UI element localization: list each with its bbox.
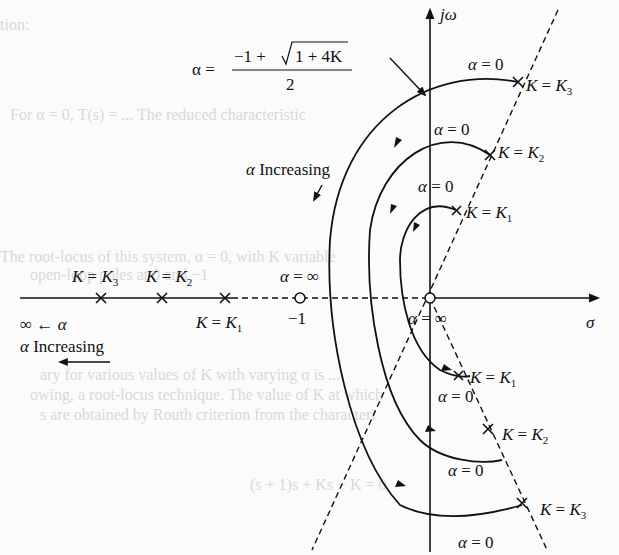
svg-text:α = ∞: α = ∞ bbox=[408, 309, 447, 328]
k-markers bbox=[96, 77, 527, 508]
svg-text:α = 0: α = 0 bbox=[434, 120, 470, 139]
svg-text:(s + 1)s + Ks − K = 0: (s + 1)s + Ks − K = 0 bbox=[250, 476, 387, 494]
svg-text:α = 0: α = 0 bbox=[468, 55, 504, 74]
svg-text:K = K1: K = K1 bbox=[195, 313, 242, 334]
svg-text:K = K1: K = K1 bbox=[469, 368, 516, 389]
svg-text:∞ ← α: ∞ ← α bbox=[20, 315, 68, 334]
svg-text:K = K1: K = K1 bbox=[465, 203, 512, 224]
svg-text:K = K3: K = K3 bbox=[539, 500, 587, 521]
alpha-formula: α = −1 + 1 + 4K 2 bbox=[192, 42, 425, 95]
svg-text:α =: α = bbox=[192, 60, 215, 79]
pole-origin bbox=[425, 293, 435, 303]
imag-axis-label: jω bbox=[438, 5, 457, 24]
svg-text:α = 0: α = 0 bbox=[458, 533, 494, 552]
svg-text:K = K2: K = K2 bbox=[145, 267, 192, 288]
real-axis-label: σ bbox=[586, 313, 595, 332]
root-locus-figure: tion: For α = 0, T(s) = ... The reduced … bbox=[0, 0, 619, 555]
svg-text:1 + 4K: 1 + 4K bbox=[295, 47, 343, 66]
dashed-asymptote-upper bbox=[312, 10, 558, 550]
svg-text:K = K2: K = K2 bbox=[497, 143, 544, 164]
svg-text:α = 0: α = 0 bbox=[448, 461, 484, 480]
svg-text:α Increasing: α Increasing bbox=[20, 337, 104, 356]
pole-minus-one bbox=[295, 293, 305, 303]
diagram-canvas: tion: For α = 0, T(s) = ... The reduced … bbox=[0, 0, 619, 555]
svg-text:owing, a root-locus technique.: owing, a root-locus technique. The value… bbox=[30, 386, 383, 404]
svg-text:tion:: tion: bbox=[0, 16, 29, 33]
real-axis-labels: K = K3 K = K2 K = K1 −1 α = ∞ α = ∞ ∞ ← … bbox=[20, 267, 447, 362]
svg-text:K = K3: K = K3 bbox=[71, 267, 119, 288]
svg-text:−1: −1 bbox=[288, 309, 306, 328]
svg-text:α = 0: α = 0 bbox=[418, 177, 454, 196]
svg-text:ary for various values of K wi: ary for various values of K with varying… bbox=[40, 366, 340, 384]
svg-text:K = K3: K = K3 bbox=[525, 76, 573, 97]
svg-text:−1 +: −1 + bbox=[234, 47, 266, 66]
svg-text:s are obtained by Routh criter: s are obtained by Routh criterion from t… bbox=[40, 406, 376, 424]
svg-text:2: 2 bbox=[286, 75, 295, 94]
svg-text:For α = 0, T(s) = ... The redu: For α = 0, T(s) = ... The reduced charac… bbox=[10, 106, 306, 124]
svg-text:α Increasing: α Increasing bbox=[246, 160, 330, 179]
svg-text:K = K2: K = K2 bbox=[501, 425, 548, 446]
svg-text:The root-locus of this system,: The root-locus of this system, α = 0, wi… bbox=[0, 248, 336, 266]
svg-text:α = ∞: α = ∞ bbox=[280, 267, 319, 286]
upper-labels: α = 0 K = K3 α = 0 K = K2 α = 0 K = K1 α… bbox=[246, 55, 573, 224]
svg-text:α = 0: α = 0 bbox=[438, 387, 474, 406]
